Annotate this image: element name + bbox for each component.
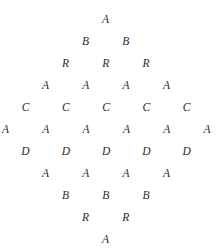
- lattice-letter-r: R: [59, 58, 73, 70]
- lattice-letter-d: D: [99, 146, 113, 158]
- lattice-letter-a: A: [99, 234, 113, 246]
- lattice-letter-a: A: [159, 80, 173, 92]
- lattice-letter-r: R: [79, 212, 93, 224]
- lattice-letter-a: A: [119, 80, 133, 92]
- lattice-letter-a: A: [79, 124, 93, 136]
- lattice-letter-d: D: [59, 146, 73, 158]
- lattice-letter-a: A: [99, 14, 113, 26]
- letter-lattice-figure: ABBRRRAAAACCCCCAAAAAADDDDDAAAABBBRRA: [0, 0, 221, 250]
- lattice-letter-b: B: [139, 190, 153, 202]
- lattice-letter-r: R: [139, 58, 153, 70]
- lattice-letter-a: A: [79, 168, 93, 180]
- lattice-letter-a: A: [159, 168, 173, 180]
- lattice-letter-b: B: [99, 190, 113, 202]
- lattice-letter-a: A: [0, 124, 13, 136]
- lattice-letter-b: B: [59, 190, 73, 202]
- lattice-letter-d: D: [180, 146, 194, 158]
- lattice-letter-a: A: [200, 124, 214, 136]
- lattice-letter-c: C: [59, 102, 73, 114]
- lattice-letter-a: A: [39, 124, 53, 136]
- lattice-letter-a: A: [79, 80, 93, 92]
- lattice-letter-b: B: [119, 36, 133, 48]
- lattice-letter-r: R: [99, 58, 113, 70]
- lattice-letter-c: C: [180, 102, 194, 114]
- lattice-letter-b: B: [79, 36, 93, 48]
- lattice-letter-a: A: [39, 168, 53, 180]
- lattice-letter-c: C: [19, 102, 33, 114]
- lattice-letter-a: A: [119, 168, 133, 180]
- lattice-letter-a: A: [39, 80, 53, 92]
- lattice-letter-d: D: [19, 146, 33, 158]
- lattice-letter-d: D: [139, 146, 153, 158]
- lattice-letter-a: A: [160, 124, 174, 136]
- lattice-letter-r: R: [119, 212, 133, 224]
- lattice-letter-c: C: [139, 102, 153, 114]
- lattice-letter-c: C: [99, 102, 113, 114]
- lattice-letter-a: A: [119, 124, 133, 136]
